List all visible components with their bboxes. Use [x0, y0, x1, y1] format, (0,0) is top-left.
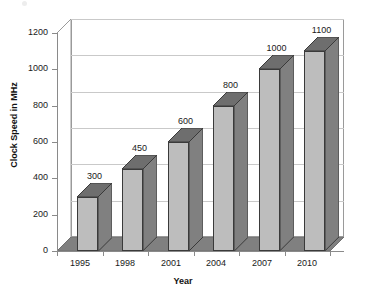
y-axis-tick-label: 800	[0, 101, 48, 110]
x-axis-tick-label: 2007	[239, 258, 285, 268]
x-axis-tick	[57, 251, 58, 256]
y-axis-tick-label: 400	[0, 173, 48, 182]
y-axis-tick-label: 1000	[0, 64, 48, 73]
bar-value-label: 800	[209, 80, 253, 90]
bar-front-face	[259, 69, 280, 251]
bar-side-face	[325, 37, 339, 251]
x-axis-tick-label: 2010	[284, 258, 330, 268]
x-axis-tick-label: 2001	[148, 258, 194, 268]
x-axis-tick	[330, 251, 331, 256]
y-axis-tick-label: 1200	[0, 28, 48, 37]
bar-top-face	[213, 92, 248, 106]
bar-value-label: 1100	[300, 25, 344, 35]
bar-front-face	[122, 169, 143, 251]
x-axis-line	[57, 251, 344, 252]
bar-top-face	[304, 37, 339, 51]
plot-left-wall	[57, 19, 71, 251]
bar-top-face	[168, 128, 203, 142]
y-axis-tick-label: 600	[0, 137, 48, 146]
bar-value-label: 450	[118, 143, 162, 153]
clock-speed-bar-chart: 020040060080010001200 300450600800100011…	[0, 0, 366, 296]
bar-value-label: 1000	[255, 43, 299, 53]
bar-column	[168, 128, 189, 251]
x-axis-tick	[148, 251, 149, 256]
bar-side-face	[143, 155, 157, 251]
bar-column	[304, 37, 325, 251]
bar-column	[122, 155, 143, 251]
y-axis-tick-label: 200	[0, 210, 48, 219]
x-axis-tick	[194, 251, 195, 256]
bar-side-face	[280, 55, 294, 251]
x-axis-title: Year	[0, 276, 366, 286]
gridline	[71, 19, 344, 20]
x-axis-tick-label: 1998	[102, 258, 148, 268]
bar-value-label: 300	[73, 171, 117, 181]
bar-side-face	[234, 92, 248, 251]
bar-front-face	[77, 197, 98, 252]
bar-front-face	[213, 106, 234, 251]
bar-side-face	[189, 128, 203, 251]
scan-artifact-mark	[22, 1, 27, 6]
y-axis-title: Clock Speed in MHz	[9, 55, 19, 195]
x-axis-tick	[285, 251, 286, 256]
bar-value-label: 600	[164, 116, 208, 126]
x-axis-tick-label: 1995	[57, 258, 103, 268]
bar-column	[77, 183, 98, 252]
x-axis-tick	[103, 251, 104, 256]
bar-top-face	[122, 155, 157, 169]
bar-top-face	[77, 183, 112, 197]
x-axis-tick	[239, 251, 240, 256]
bar-front-face	[304, 51, 325, 251]
bar-top-face	[259, 55, 294, 69]
bar-front-face	[168, 142, 189, 251]
x-axis-tick-label: 2004	[193, 258, 239, 268]
bar-column	[259, 55, 280, 251]
y-axis-tick-label: 0	[0, 246, 48, 255]
bar-column	[213, 92, 234, 251]
y-axis-line	[57, 33, 58, 251]
